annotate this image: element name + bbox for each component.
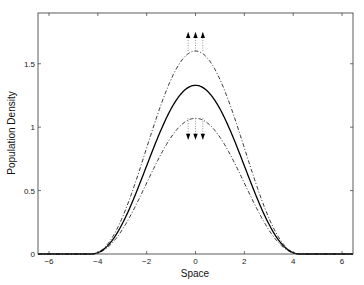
x-tick-label: −6 [44,257,54,266]
arrow-up-icon [201,32,205,38]
arrow-down-icon [186,134,190,140]
x-tick-label: −4 [93,257,103,266]
x-tick-label: 4 [291,257,296,266]
arrow-down-icon [193,134,197,140]
arrow-up-icon [186,32,190,38]
x-axis-label: Space [181,268,210,279]
y-tick-label: 1 [31,123,36,132]
x-tick-label: −2 [142,257,152,266]
y-tick-label: 0.5 [24,187,36,196]
curve-upper [38,51,353,254]
y-tick-label: 1.5 [24,60,36,69]
x-tick-label: 0 [193,257,198,266]
arrow-down-icon [201,134,205,140]
arrow-up-icon [193,32,197,38]
density-curves [38,51,353,254]
y-tick-label: 0 [31,250,36,259]
x-tick-label: 2 [242,257,247,266]
y-axis-label: Population Density [6,91,17,174]
y-axis-ticks: 00.511.5 [24,60,353,259]
population-density-chart: −6−4−20246 00.511.5 Space Population Den… [0,0,364,285]
curve-center [38,85,353,254]
x-tick-label: 6 [340,257,345,266]
